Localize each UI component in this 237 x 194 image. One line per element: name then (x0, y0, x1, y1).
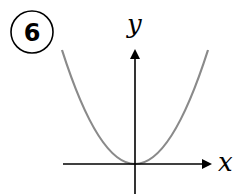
y-axis-label: y (126, 9, 142, 39)
problem-number-badge: 6 (11, 11, 53, 53)
problem-number: 6 (24, 19, 41, 47)
graph-canvas: 6 x y (0, 0, 237, 194)
x-axis-label: x (218, 147, 233, 177)
